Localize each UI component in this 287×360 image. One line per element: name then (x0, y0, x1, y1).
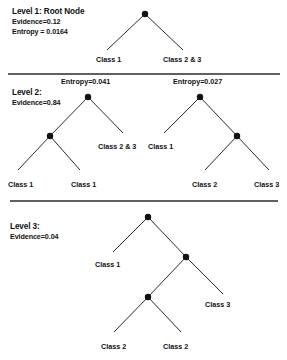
tree-node-right-subtree-root (197, 94, 203, 100)
decision-tree-figure: Level 1: Root NodeEvidence=0.12Entropy =… (0, 0, 287, 360)
level-2-stat: Evidence=0.84 (12, 98, 60, 108)
tree-branch (50, 136, 80, 170)
tree-node-inner-child (145, 294, 151, 300)
level-3-caption: Level 3:Evidence=0.04 (10, 222, 58, 242)
tree-branch (200, 97, 237, 136)
level-3-title: Level 3: (10, 222, 58, 232)
tree-node-root (145, 214, 151, 220)
tree-branch (164, 97, 200, 133)
leaf-class-label: Class 2 & 3 (98, 142, 136, 151)
tree-branch (186, 257, 223, 294)
tree-branch (145, 14, 183, 50)
leaf-class-label: Class 1 (148, 142, 173, 151)
leaf-class-label: Class 1 (95, 260, 120, 269)
tree-branch (114, 297, 148, 332)
leaf-class-label: Class 2 (101, 342, 126, 351)
leaf-class-label: Class 2 (192, 180, 217, 189)
level-2-caption: Level 2:Evidence=0.84 (12, 88, 60, 108)
tree-node-left-subtree-child (47, 133, 53, 139)
tree-node-left-subtree-root (85, 94, 91, 100)
level-1-caption: Level 1: Root NodeEvidence=0.12Entropy =… (12, 7, 84, 36)
leaf-class-label: Class 2 & 3 (163, 55, 201, 64)
tree-canvas (0, 0, 287, 360)
node-entropy-label: Entropy=0.041 (61, 77, 110, 86)
leaf-class-label: Class 3 (254, 180, 279, 189)
tree-branch (148, 217, 186, 257)
level-2-title: Level 2: (12, 88, 60, 98)
leaf-class-label: Class 3 (205, 300, 230, 309)
tree-branch (107, 14, 145, 50)
leaf-class-label: Class 1 (8, 180, 33, 189)
tree-node-right-subtree-child (234, 133, 240, 139)
tree-node-right-child (183, 254, 189, 260)
tree-branch (148, 297, 181, 332)
leaf-class-label: Class 2 (163, 342, 188, 351)
leaf-class-label: Class 1 (71, 180, 96, 189)
tree-branch (18, 136, 50, 170)
level-3-stat: Evidence=0.04 (10, 232, 58, 242)
tree-node-root (142, 11, 148, 17)
node-entropy-label: Entropy=0.027 (173, 77, 222, 86)
level-1-title: Level 1: Root Node (12, 7, 84, 17)
tree-branch (205, 136, 237, 170)
level-1-stat: Evidence=0.12 (12, 17, 84, 27)
tree-branch (113, 217, 148, 252)
tree-branch (148, 257, 186, 297)
tree-branch (88, 97, 123, 133)
level-1-stat: Entropy = 0.0164 (12, 27, 84, 37)
leaf-class-label: Class 1 (96, 55, 121, 64)
tree-branch (237, 136, 269, 170)
